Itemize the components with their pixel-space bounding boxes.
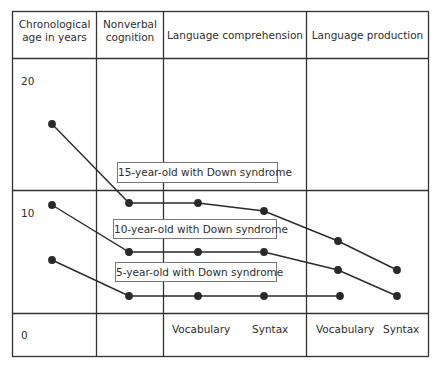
data-point: [394, 293, 400, 299]
data-point: [49, 257, 55, 263]
label-5-year-old: 5-year-old with Down syndrome: [115, 262, 277, 282]
data-point: [261, 208, 267, 214]
comprehension-vocabulary-label: Vocabulary: [172, 323, 230, 336]
production-syntax-label: Syntax: [383, 323, 419, 336]
header-nonverbal: Nonverbal cognition: [97, 18, 163, 44]
data-point: [126, 200, 132, 206]
header-comprehension: Language comprehension: [164, 29, 306, 42]
data-point: [261, 293, 267, 299]
header-nonverbal-line2: cognition: [97, 31, 163, 44]
grid-and-lines: [0, 0, 439, 369]
developmental-profile-diagram: Chronological age in years Nonverbal cog…: [0, 0, 439, 369]
data-point: [337, 293, 343, 299]
data-point: [49, 202, 55, 208]
data-point: [394, 267, 400, 273]
data-point: [126, 293, 132, 299]
series-15-year-old: [49, 121, 400, 273]
data-point: [126, 249, 132, 255]
comprehension-syntax-label: Syntax: [252, 323, 288, 336]
data-point: [261, 249, 267, 255]
production-vocabulary-label: Vocabulary: [316, 323, 374, 336]
data-point: [195, 200, 201, 206]
y-tick-20: 20: [21, 75, 34, 88]
y-tick-0: 0: [21, 329, 28, 342]
label-10-year-old: 10-year-old with Down syndrome: [113, 219, 277, 239]
data-point: [49, 121, 55, 127]
label-15-year-old: 15-year-old with Down syndrome: [117, 162, 278, 183]
data-point: [195, 293, 201, 299]
header-age-line1: Chronological: [13, 18, 96, 31]
header-age: Chronological age in years: [13, 18, 96, 44]
header-nonverbal-line1: Nonverbal: [97, 18, 163, 31]
data-point: [335, 238, 341, 244]
data-point: [195, 249, 201, 255]
series-10-year-old: [49, 202, 400, 299]
y-tick-10: 10: [21, 207, 34, 220]
table-border: [13, 12, 429, 357]
header-age-line2: age in years: [13, 31, 96, 44]
data-point: [335, 267, 341, 273]
header-production: Language production: [307, 29, 428, 42]
